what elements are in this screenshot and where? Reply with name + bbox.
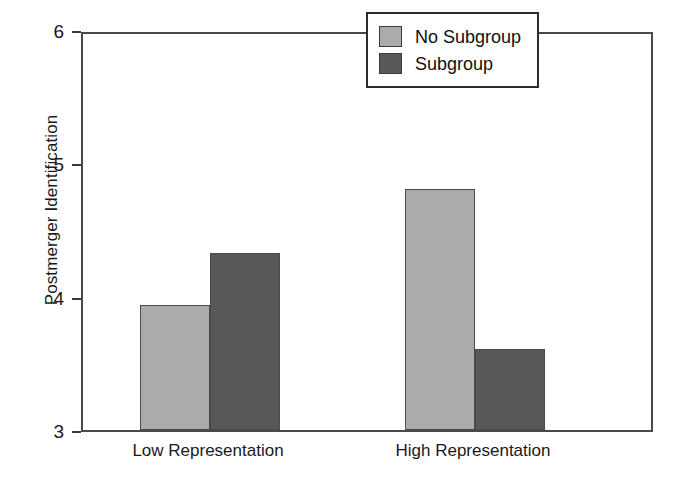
y-tick-mark [72, 431, 81, 433]
x-tick-label: Low Representation [98, 441, 318, 461]
bar [210, 253, 280, 430]
y-tick-mark [72, 164, 81, 166]
legend-item-subgroup: Subgroup [379, 50, 521, 77]
x-tick-label: High Representation [363, 441, 583, 461]
y-tick-label: 3 [38, 422, 64, 441]
legend-label-no-subgroup: No Subgroup [415, 28, 521, 46]
y-tick-label: 4 [38, 289, 64, 308]
legend-item-no-subgroup: No Subgroup [379, 23, 521, 50]
legend-swatch-no-subgroup [379, 26, 402, 47]
y-axis-ticks: 3456 [38, 0, 64, 489]
plot-area [81, 32, 653, 432]
y-tick-label: 5 [38, 155, 64, 174]
legend-label-subgroup: Subgroup [415, 55, 493, 73]
bar [405, 189, 475, 430]
bar-chart-figure: Postmerger Identification 3456 Low Repre… [0, 0, 688, 489]
legend-swatch-subgroup [379, 53, 402, 74]
bar [475, 349, 545, 430]
y-tick-mark [72, 31, 81, 33]
y-tick-label: 6 [38, 22, 64, 41]
chart-legend: No Subgroup Subgroup [366, 12, 539, 88]
y-tick-mark [72, 298, 81, 300]
bars-layer [83, 34, 651, 430]
bar [140, 305, 210, 430]
